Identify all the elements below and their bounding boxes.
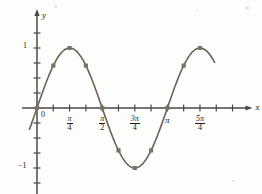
x-tick-label-pi-over-4: π 4: [67, 115, 73, 133]
scan-artifact: [245, 6, 249, 10]
origin-tick-label: 0: [41, 111, 45, 119]
y-tick-label-negative-one: −1: [18, 162, 27, 170]
fraction-numerator: 3π: [130, 115, 140, 123]
x-axis-label: x: [256, 102, 260, 112]
plot-canvas: [0, 0, 262, 194]
fraction-numerator: π: [99, 115, 105, 123]
scan-artifact: [54, 5, 57, 8]
y-axis-label: y: [42, 10, 46, 20]
x-tick-label-three-pi-over-4: 3π 4: [130, 115, 140, 133]
fraction-numerator: 5π: [195, 115, 205, 123]
fraction-denominator: 4: [195, 123, 205, 132]
x-tick-label-pi: π: [165, 116, 170, 125]
axes-group: [23, 9, 253, 194]
x-tick-label-pi-over-2: π 2: [99, 115, 105, 133]
scan-artifact: [232, 180, 235, 182]
fraction-denominator: 2: [99, 123, 105, 132]
sine-graph-figure: y x 0 1 −1 π 4 π 2 3π 4 π 5π 4: [0, 0, 262, 194]
fraction-numerator: π: [67, 115, 73, 123]
scan-artifact: [196, 9, 198, 11]
fraction-denominator: 4: [67, 123, 73, 132]
fraction-denominator: 4: [130, 123, 140, 132]
x-tick-label-five-pi-over-4: 5π 4: [195, 115, 205, 133]
y-tick-label-one: 1: [23, 42, 27, 50]
